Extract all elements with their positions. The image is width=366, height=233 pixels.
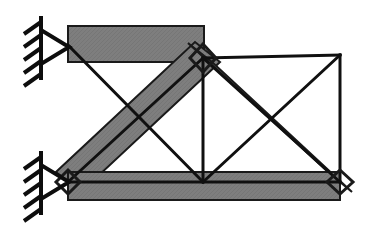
structural-diagram-canvas: Two-bay braced frame structural diagram …	[0, 0, 366, 233]
truss-diagram-svg	[0, 0, 366, 233]
